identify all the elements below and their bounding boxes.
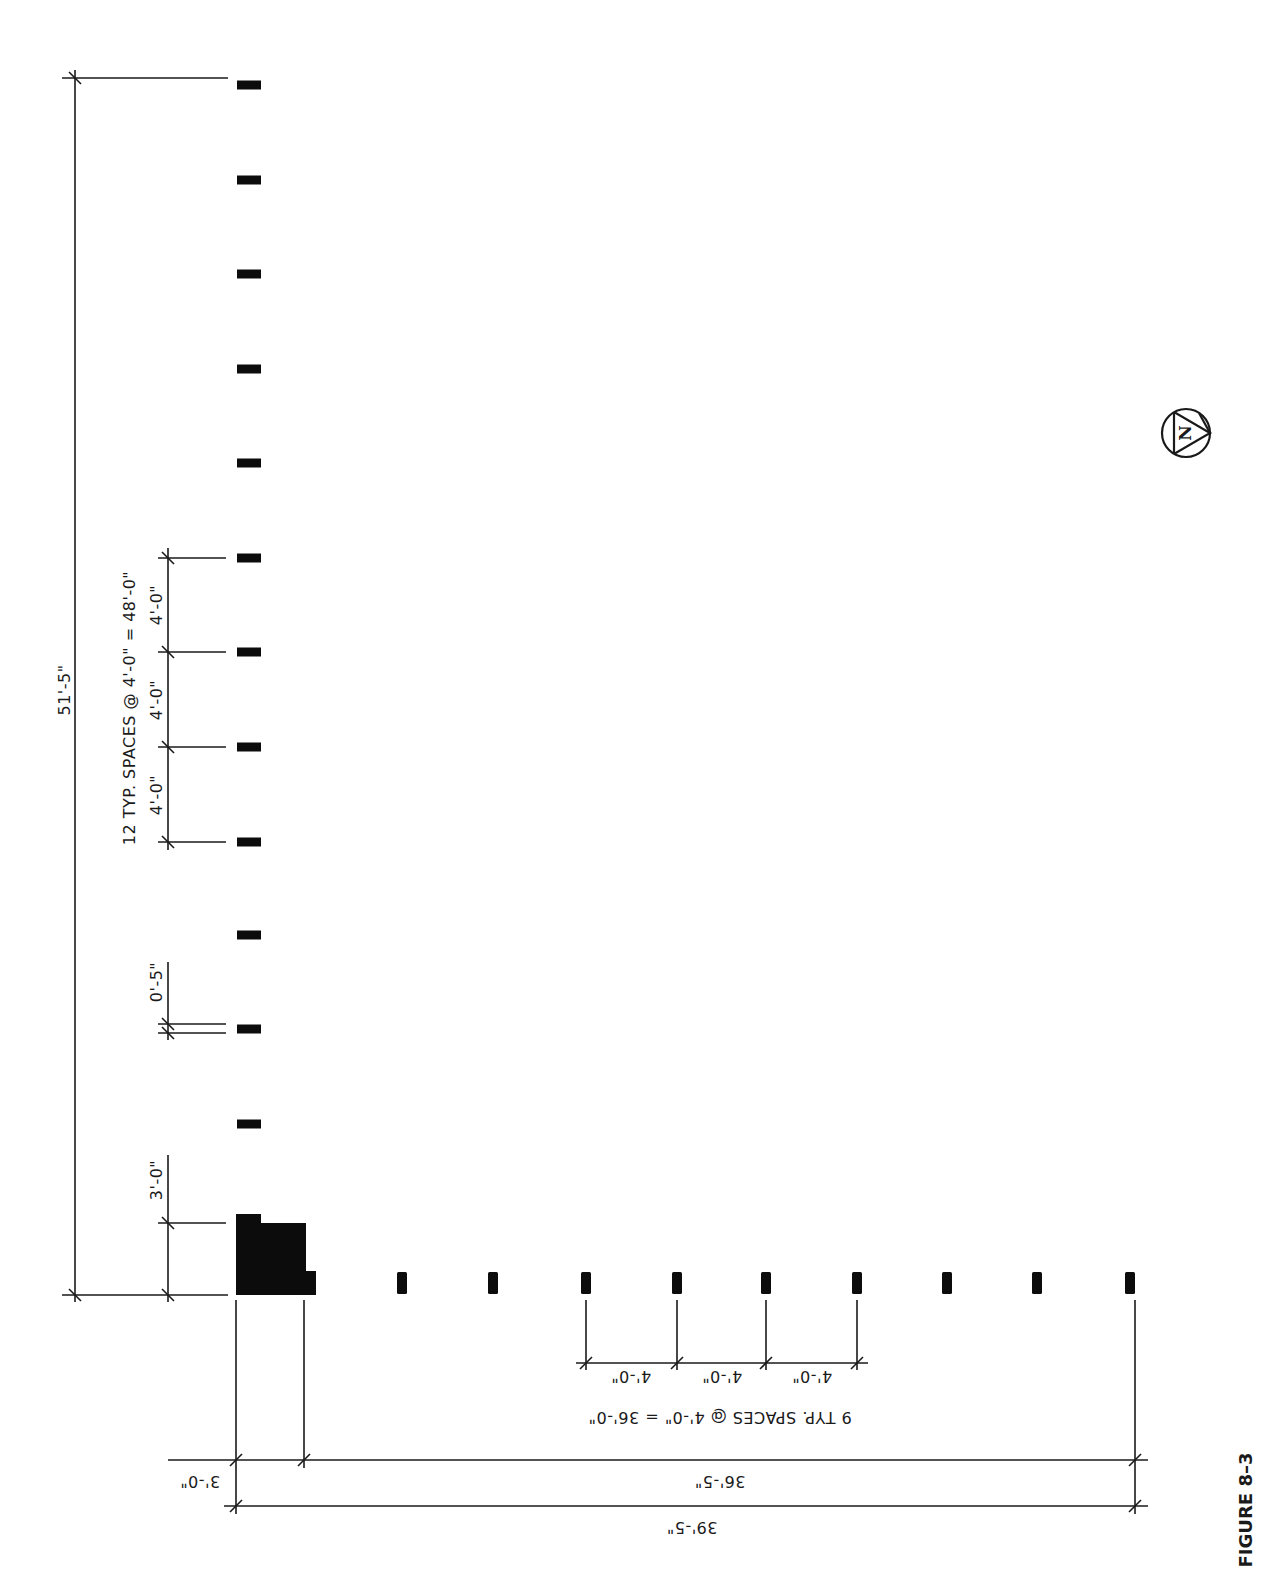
post-vertical-3: [237, 270, 261, 279]
dim-label-3-0-bottom: 3'-0": [180, 1472, 220, 1491]
dim-label-12-typ-spaces: 12 TYP. SPACES @ 4'-0" = 48'-0": [120, 571, 139, 845]
post-horizontal-3: [581, 1272, 591, 1294]
vertical-post-row: [237, 81, 261, 1129]
post-vertical-1: [237, 81, 261, 90]
post-horizontal-5: [761, 1272, 771, 1294]
north-letter: N: [1175, 425, 1195, 441]
post-vertical-6: [237, 554, 261, 563]
post-horizontal-4: [672, 1272, 682, 1294]
dim-label-4-0-v1: 4'-0": [147, 585, 166, 625]
dim-label-3-0-vertical: 3'-0": [147, 1160, 166, 1200]
post-horizontal-1: [397, 1272, 407, 1294]
post-vertical-4: [237, 365, 261, 374]
dimension-small-gap: 0'-5": [147, 962, 226, 1040]
post-vertical-12: [237, 1120, 261, 1129]
post-vertical-2: [237, 176, 261, 185]
dim-label-4-0-v3: 4'-0": [147, 775, 166, 815]
horizontal-post-row: [397, 1272, 1135, 1294]
dim-label-9-typ-spaces: 9 TYP. SPACES @ 4'-0" = 36'-0": [588, 1408, 852, 1427]
dim-label-4-0-v2: 4'-0": [147, 680, 166, 720]
corner-post-block: [236, 1214, 316, 1295]
post-horizontal-9: [1125, 1272, 1135, 1294]
post-vertical-8: [237, 743, 261, 752]
post-horizontal-6: [852, 1272, 862, 1294]
dim-label-39-5: 39'-5": [666, 1518, 717, 1537]
post-vertical-9: [237, 838, 261, 847]
post-vertical-7: [237, 648, 261, 657]
post-vertical-11: [237, 1025, 261, 1034]
dimension-corner-vertical: 3'-0": [147, 1155, 226, 1302]
post-vertical-5: [237, 459, 261, 468]
dimension-vertical-chain: 4'-0" 4'-0" 4'-0": [147, 548, 226, 850]
figure-label: FIGURE 8–3: [1235, 1453, 1256, 1568]
dim-label-36-5: 36'-5": [694, 1472, 745, 1491]
post-vertical-10: [237, 931, 261, 940]
dim-label-4-0-h2: 4'-0": [702, 1367, 742, 1386]
dim-label-0-5: 0'-5": [147, 962, 166, 1002]
dimension-overall-horizontal: 39'-5": [224, 1500, 1148, 1537]
dim-label-4-0-h1: 4'-0": [611, 1367, 651, 1386]
dimension-overall-vertical: 51'-5": [55, 70, 228, 1302]
dim-label-4-0-h3: 4'-0": [792, 1367, 832, 1386]
extension-lines-bottom: [236, 1300, 1135, 1514]
dimension-36-5: 3'-0" 36'-5": [168, 1454, 1148, 1491]
dimension-horizontal-chain: 4'-0" 4'-0" 4'-0": [576, 1357, 868, 1386]
dim-label-51-5: 51'-5": [55, 664, 74, 715]
post-horizontal-8: [1032, 1272, 1042, 1294]
site-plan-drawing: 51'-5" 12 TYP. SPACES @ 4'-0" = 48'-0" 4…: [0, 0, 1268, 1581]
post-horizontal-2: [488, 1272, 498, 1294]
north-arrow-icon: N: [1162, 409, 1210, 457]
post-horizontal-7: [942, 1272, 952, 1294]
